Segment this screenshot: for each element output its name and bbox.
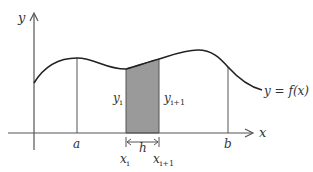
label-h: h <box>139 141 147 155</box>
label-a: a <box>73 137 80 151</box>
trapezoid-rule-diagram: y x a b h y = f(x) xi xi+1 yi yi+1 <box>0 0 313 172</box>
label-b: b <box>224 137 232 151</box>
label-y-i: yi <box>112 91 123 107</box>
curve-label: y = f(x) <box>263 84 309 98</box>
label-y-i-plus-1: yi+1 <box>163 91 185 107</box>
x-axis-label: x <box>259 125 267 140</box>
y-axis-label: y <box>17 10 26 25</box>
shaded-strip <box>126 59 159 133</box>
label-x-i: xi <box>120 152 130 168</box>
label-x-i-plus-1: xi+1 <box>153 152 174 168</box>
